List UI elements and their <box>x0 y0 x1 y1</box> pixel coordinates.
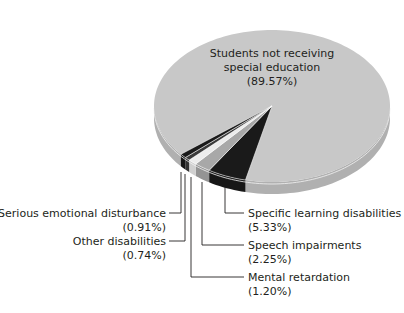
label-not-receiving: Students not receiving special education… <box>205 47 339 89</box>
label-serious-emotional-name: Serious emotional disturbance <box>0 207 166 221</box>
label-serious-emotional-value: (0.91%) <box>0 221 166 235</box>
label-speech-name: Speech impairments <box>248 239 361 253</box>
leader-line <box>169 172 181 213</box>
label-specific-learning-name: Specific learning disabilities <box>248 207 401 221</box>
label-not-receiving-line1: Students not receiving <box>205 47 339 61</box>
label-other-disabilities-value: (0.74%) <box>73 249 166 263</box>
leader-line <box>191 177 244 277</box>
label-specific-learning: Specific learning disabilities (5.33%) <box>248 207 401 235</box>
label-speech: Speech impairments (2.25%) <box>248 239 361 267</box>
label-speech-value: (2.25%) <box>248 253 361 267</box>
label-other-disabilities: Other disabilities (0.74%) <box>73 235 166 263</box>
label-not-receiving-line2: special education <box>205 61 339 75</box>
leader-line <box>169 174 185 241</box>
leader-line <box>202 182 244 245</box>
label-mental-retardation-name: Mental retardation <box>248 271 350 285</box>
label-serious-emotional: Serious emotional disturbance (0.91%) <box>0 207 166 235</box>
label-mental-retardation-value: (1.20%) <box>248 285 350 299</box>
label-other-disabilities-name: Other disabilities <box>73 235 166 249</box>
label-mental-retardation: Mental retardation (1.20%) <box>248 271 350 299</box>
label-not-receiving-value: (89.57%) <box>205 75 339 89</box>
label-specific-learning-value: (5.33%) <box>248 221 401 235</box>
